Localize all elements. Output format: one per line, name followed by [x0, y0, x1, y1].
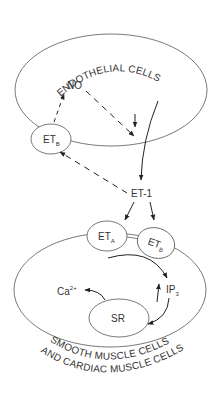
arrow-endothelial-to-et1: [141, 101, 158, 180]
arrow-no-to-target: [86, 91, 134, 136]
etb-receptor-endothelial: ETB: [31, 124, 71, 154]
endothelin-signaling-diagram: ENDOTHELIAL CELLS ETB NO ET-1 SMOOTH MUS…: [0, 0, 215, 394]
sarcoplasmic-reticulum: SR: [89, 299, 149, 337]
arrow-ip3-to-sr: [148, 298, 169, 324]
et1-label: ET-1: [131, 188, 153, 199]
sr-label: SR: [111, 313, 125, 324]
arrow-etb-to-no: [54, 94, 64, 122]
arrow-sr-to-calcium: [85, 290, 105, 300]
arrow-et1-to-etb-endothelial: [60, 152, 127, 193]
eta-receptor: ETA: [87, 221, 127, 251]
arrow-et1-to-etb-muscle: [150, 202, 154, 220]
ip3-label: IP3: [166, 284, 179, 297]
arrow-ip3-increase: [157, 284, 159, 302]
etb-receptor-muscle: ETB: [133, 223, 178, 263]
arrow-et1-to-eta: [125, 202, 134, 220]
no-label: NO: [67, 80, 82, 91]
calcium-label: Ca2+: [57, 285, 77, 297]
